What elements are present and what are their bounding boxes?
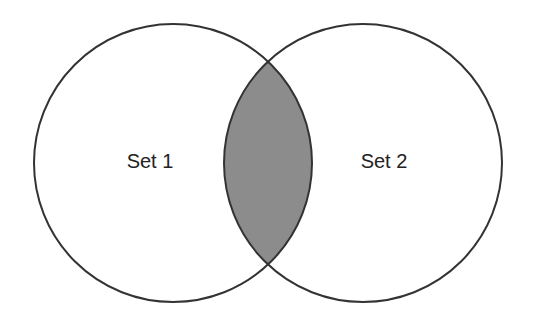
set-1-label: Set 1 — [127, 150, 174, 172]
venn-diagram: Set 1 Set 2 — [0, 0, 537, 322]
set-2-label: Set 2 — [361, 150, 408, 172]
